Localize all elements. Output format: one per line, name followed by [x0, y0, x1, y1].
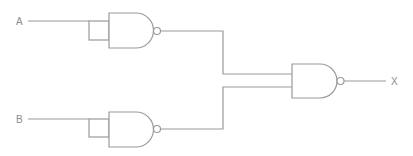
nand-gate-3	[292, 64, 344, 98]
tied-inputs-loop-1	[89, 21, 109, 40]
tied-inputs-loop-2	[89, 119, 109, 137]
inversion-bubble-1	[154, 28, 161, 35]
nand-gate-2	[89, 112, 161, 147]
nand-body-2	[109, 112, 153, 147]
nand-body-3	[292, 64, 337, 98]
input-label-b: B	[16, 114, 23, 125]
nand-gate-1	[89, 13, 161, 48]
inversion-bubble-2	[154, 126, 161, 133]
inversion-bubble-3	[337, 78, 344, 85]
input-label-a: A	[16, 16, 23, 27]
wire-n2	[161, 87, 293, 129]
output-label-x: X	[391, 76, 398, 87]
wire-n1	[161, 31, 293, 74]
nand-body-1	[109, 13, 154, 48]
logic-circuit-diagram: A B X	[0, 0, 413, 156]
